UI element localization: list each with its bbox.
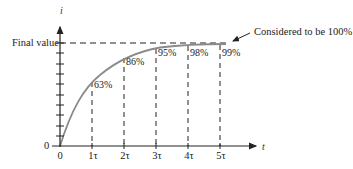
- zero-y-label: 0: [44, 141, 49, 152]
- y-axis-label: i: [60, 6, 63, 16]
- x-tick-0: 0: [57, 151, 62, 162]
- annotation-considered-100: Considered to be 100%: [254, 27, 352, 38]
- percent-label-86: 86%: [126, 57, 144, 67]
- tau-dashed-lines: [92, 45, 220, 146]
- percent-label-95: 95%: [158, 48, 176, 58]
- annotation-arrow: [233, 33, 250, 41]
- x-axis-label: t: [262, 142, 265, 152]
- x-tick-4tau: 4τ: [184, 151, 193, 162]
- x-tick-5tau: 5τ: [216, 151, 225, 162]
- percent-label-99: 99%: [222, 48, 240, 58]
- x-tick-3tau: 3τ: [152, 151, 161, 162]
- x-tick-1tau: 1τ: [88, 151, 97, 162]
- final-value-label: Final value: [12, 38, 59, 49]
- percent-label-98: 98%: [190, 48, 208, 58]
- x-tick-2tau: 2τ: [120, 151, 129, 162]
- percent-label-63: 63%: [94, 80, 112, 90]
